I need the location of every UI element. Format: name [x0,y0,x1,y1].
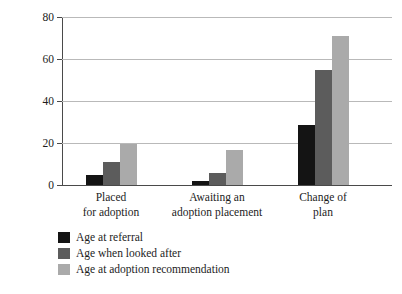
legend-label: Age when looked after [76,246,181,261]
bar [209,173,226,185]
legend-label: Age at referral [76,230,143,245]
x-axis-line [62,185,392,186]
legend-swatch-icon [58,248,70,259]
y-tick-mark [57,185,62,186]
category-label-line: Change of [253,190,393,205]
legend-swatch-icon [58,264,70,275]
plot-area [62,17,392,185]
category-label-line: plan [253,205,393,220]
legend-item: Age at referral [58,230,358,245]
y-tick-label: 80 [24,11,54,23]
legend-item: Age when looked after [58,246,358,261]
bar [103,162,120,185]
bar-chart-figure: Mean age in months 020406080 Placedfor a… [0,0,402,294]
bar [226,150,243,185]
gridline [62,17,392,18]
bar [315,70,332,186]
y-tick-label: 40 [24,95,54,107]
bar [86,175,103,186]
bar [120,144,137,185]
y-tick-label: 60 [24,53,54,65]
bar [298,125,315,185]
bar [332,36,349,185]
legend-swatch-icon [58,232,70,243]
chart-legend: Age at referralAge when looked afterAge … [58,230,358,278]
legend-label: Age at adoption recommendation [76,262,230,277]
y-tick-label: 20 [24,137,54,149]
legend-item: Age at adoption recommendation [58,262,358,277]
bar [192,181,209,185]
x-axis-category-label: Change ofplan [253,190,393,219]
